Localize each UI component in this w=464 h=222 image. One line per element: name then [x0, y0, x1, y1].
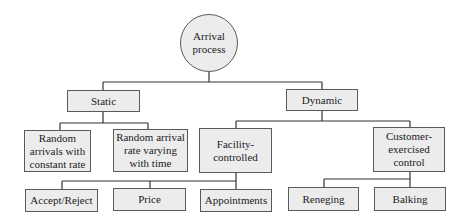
node-price: Price [113, 188, 186, 211]
node-facility-controlled: Facility- controlled [199, 128, 272, 173]
node-static: Static [67, 90, 140, 112]
arrival-process-tree-diagram: Arrival process Static Dynamic Random ar… [0, 0, 464, 222]
node-random-arrivals-constant-rate: Random arrivals with constant rate [24, 130, 91, 172]
node-arrival-process: Arrival process [180, 14, 238, 72]
node-dynamic: Dynamic [286, 89, 358, 111]
node-random-arrival-rate-varying: Random arrival rate varying with time [113, 129, 188, 172]
node-balking: Balking [374, 187, 446, 211]
node-reneging: Reneging [288, 187, 359, 211]
node-accept-reject: Accept/Reject [25, 189, 98, 212]
node-customer-exercised-control: Customer- exercised control [373, 127, 445, 172]
node-appointments: Appointments [200, 189, 272, 212]
